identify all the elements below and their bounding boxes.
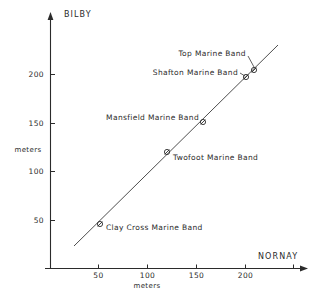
data-point-clay-cross[interactable] [97, 221, 102, 226]
y-axis-arrowhead [48, 12, 54, 20]
point-label-shafton: Shafton Marine Band [153, 68, 238, 77]
y-axis-unit-label: meters [14, 146, 41, 154]
data-point-mansfield[interactable] [200, 119, 205, 124]
y-tick-label-100: 100 [28, 167, 44, 176]
x-axis-arrowhead [300, 266, 308, 272]
x-axis-tick-labels: 50 100 150 200 [93, 271, 253, 280]
x-tick-label-150: 150 [189, 271, 205, 280]
x-tick-label-100: 100 [140, 271, 156, 280]
data-points [97, 67, 256, 226]
x-axis-unit-label: meters [133, 282, 160, 290]
x-axis-title: NORNAY [258, 252, 298, 261]
y-tick-label-150: 150 [28, 119, 44, 128]
y-axis-title: BILBY [64, 10, 92, 19]
y-axis-ticks [51, 75, 56, 221]
data-point-shafton[interactable] [243, 74, 248, 79]
point-label-clay-cross: Clay Cross Marine Band [106, 223, 203, 232]
point-labels: Top Marine Band Shafton Marine Band Mans… [106, 49, 258, 232]
y-tick-label-50: 50 [34, 216, 44, 225]
chart-svg: 50 100 150 200 200 150 100 50 BILBY NORN… [0, 0, 315, 303]
point-label-mansfield: Mansfield Marine Band [106, 113, 199, 122]
axes-group [45, 12, 308, 271]
leader-lines [240, 56, 254, 76]
chart-figure: 50 100 150 200 200 150 100 50 BILBY NORN… [0, 0, 315, 303]
x-axis-ticks [99, 265, 294, 269]
leader-line-top [248, 56, 254, 67]
y-tick-label-200: 200 [28, 70, 44, 79]
point-label-top: Top Marine Band [177, 49, 246, 58]
x-tick-label-200: 200 [238, 271, 254, 280]
point-label-twofoot: Twofoot Marine Band [172, 153, 258, 162]
x-tick-label-50: 50 [93, 271, 103, 280]
